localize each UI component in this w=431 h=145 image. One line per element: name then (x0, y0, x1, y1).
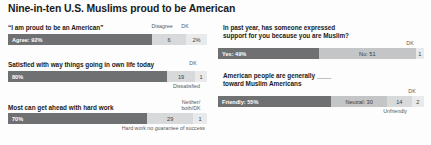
bar-segment-satisfied: 80% (8, 71, 167, 82)
bar-segment-neither: 1 (193, 113, 207, 124)
header-disagree: Disagree (148, 24, 176, 30)
bar-segment-agree: Agree: 92% (8, 34, 152, 45)
panel-question-line-2: toward Muslim Americans (223, 80, 302, 88)
bar-segment-friendly: Friendly: 55% (218, 96, 331, 107)
stacked-bar: 80% 19 1 (8, 71, 207, 82)
bar-segment-dk: 1 (195, 71, 207, 82)
header-dk: DK (403, 41, 417, 47)
header-dk: DK (178, 24, 192, 30)
right-column: In past year, has someone expressed supp… (215, 24, 431, 145)
stacked-bar: Yes: 49% No: 51 1 (218, 48, 424, 59)
header-line-2: both/DK (181, 105, 200, 111)
bar-segment-no: No: 51 (319, 48, 416, 59)
bar-segment-can-get-ahead: 70% (8, 113, 147, 124)
stacked-bar: 70% 29 1 (8, 113, 207, 124)
bar-segment-neutral: Neutral: 30 (331, 96, 387, 107)
panel-question-line-1: In past year, has someone expressed (223, 24, 335, 32)
header-neither-both-dk: Neither/ both/DK (176, 100, 206, 111)
panel-question: Most can get ahead with hard work (8, 104, 114, 112)
bar-segment-dk: 2% (186, 34, 207, 45)
stacked-bar: Friendly: 55% Neutral: 30 14 2 (218, 96, 424, 107)
panel-question: Satisfied with way things going in own l… (8, 61, 154, 69)
bar-segment-disagree: 6 (152, 34, 186, 45)
bar-footnote: Hard work no guarantee of success (80, 125, 205, 131)
header-dk: DK (405, 89, 419, 95)
bar-segment-dissatisfied: 19 (167, 71, 195, 82)
stacked-bar: Agree: 92% 6 2% (8, 34, 207, 45)
bar-segment-unfriendly: 14 (387, 96, 412, 107)
bar-footnote: Unfriendly (345, 108, 407, 114)
header-dk: DK (186, 61, 200, 67)
left-column: “I am proud to be an American” Disagree … (0, 24, 215, 145)
panel-question: “I am proud to be an American” (8, 24, 103, 32)
bar-segment-dk: 1 (416, 48, 424, 59)
panel-question-line-1: American people are generally ____ (223, 72, 331, 80)
bar-footnote: Dissatisfied (110, 83, 200, 89)
infographic-root: Nine-in-ten U.S. Muslims proud to be Ame… (0, 0, 431, 145)
bar-segment-yes: Yes: 49% (218, 48, 319, 59)
bar-segment-no-guarantee: 29 (147, 113, 193, 124)
panel-question-line-2: support for you because you are Muslim? (223, 32, 349, 40)
bar-segment-dk: 2 (412, 96, 424, 107)
page-title: Nine-in-ten U.S. Muslims proud to be Ame… (8, 3, 235, 14)
